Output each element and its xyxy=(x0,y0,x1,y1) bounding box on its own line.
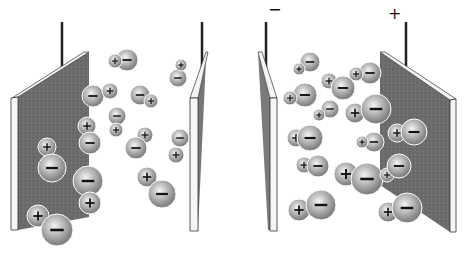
ion-pair xyxy=(313,100,339,121)
ion-pair xyxy=(168,129,189,163)
ion-pair xyxy=(108,49,138,71)
ion-pair xyxy=(78,117,101,154)
left-panel-back-plate xyxy=(11,22,89,230)
ion-pair xyxy=(293,52,320,75)
ion-pair xyxy=(345,94,391,124)
left-plate-edge xyxy=(11,97,18,230)
ion-pair xyxy=(349,62,381,84)
ion-pair xyxy=(82,83,118,107)
ion-pair xyxy=(378,193,422,223)
ion-pair xyxy=(137,167,176,208)
ion-pair xyxy=(288,190,336,221)
ion-pair xyxy=(108,107,126,137)
ion-polarization-diagram xyxy=(0,0,466,257)
ion-pair xyxy=(125,127,153,159)
ion-pair xyxy=(356,132,384,152)
ion-pair xyxy=(296,155,329,177)
ion-pair xyxy=(283,83,317,107)
ion-pair xyxy=(334,162,383,195)
ion-pair xyxy=(287,125,323,151)
left-panel-right-plate xyxy=(190,22,208,231)
right-panel-negative-plate xyxy=(258,22,277,231)
ion-pair xyxy=(130,85,158,108)
positive-terminal-label: + xyxy=(388,6,401,22)
right-plate-edge xyxy=(190,98,198,231)
ion-pair xyxy=(169,59,187,87)
negative-terminal-label: − xyxy=(268,2,281,18)
